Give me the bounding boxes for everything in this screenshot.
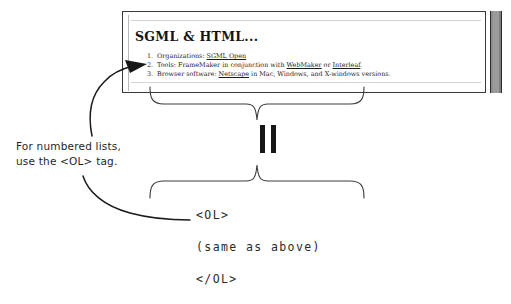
list-item-text: Tools: FrameMaker in conjunction with bbox=[157, 61, 287, 69]
list-item-number: 2. bbox=[147, 61, 157, 70]
list-item-link[interactable]: Netscape bbox=[219, 70, 249, 78]
list-item-number: 3. bbox=[147, 70, 157, 79]
equals-bar-right bbox=[271, 125, 276, 153]
list-item-link[interactable]: WebMaker bbox=[287, 61, 322, 69]
horizontal-rule-top bbox=[131, 20, 481, 21]
code-body-text: (same as above) bbox=[196, 240, 321, 254]
page-edge-line bbox=[128, 15, 129, 91]
code-open-tag: <OL> bbox=[196, 208, 229, 222]
page-title: SGML & HTML... bbox=[135, 29, 258, 44]
brace-upper-icon bbox=[148, 86, 366, 122]
code-close-tag: </OL> bbox=[196, 272, 238, 286]
numbered-list: 1.Organizations: SGML Open 2.Tools: Fram… bbox=[147, 52, 391, 80]
annotation-line-1: For numbered lists, bbox=[16, 139, 146, 154]
annotation-text: For numbered lists, use the <OL> tag. bbox=[16, 139, 146, 169]
equals-bar-left bbox=[260, 125, 265, 153]
list-item-text: Organizations: bbox=[157, 52, 207, 60]
brace-lower-icon bbox=[148, 163, 366, 199]
list-item: 1.Organizations: SGML Open bbox=[147, 52, 391, 61]
diagram-canvas: SGML & HTML... 1.Organizations: SGML Ope… bbox=[0, 0, 511, 304]
equals-symbol bbox=[258, 125, 280, 153]
list-item-link[interactable]: SGML Open bbox=[207, 52, 247, 60]
horizontal-rule-bottom bbox=[131, 82, 481, 83]
list-item-number: 1. bbox=[147, 52, 157, 61]
list-item-text-mid: or bbox=[322, 61, 333, 69]
list-item-link-secondary[interactable]: Interleaf bbox=[333, 61, 361, 69]
list-item: 2.Tools: FrameMaker in conjunction with … bbox=[147, 61, 391, 70]
vertical-scrollbar[interactable] bbox=[490, 11, 502, 93]
list-item-text-mid: in Mac, Windows, and X-windows versions. bbox=[249, 70, 391, 78]
annotation-line-2: use the <OL> tag. bbox=[16, 154, 146, 169]
list-item-text-post: . bbox=[360, 61, 362, 69]
document-window: SGML & HTML... 1.Organizations: SGML Ope… bbox=[122, 11, 486, 93]
list-item-text: Browser software: bbox=[157, 70, 219, 78]
list-item: 3.Browser software: Netscape in Mac, Win… bbox=[147, 70, 391, 79]
